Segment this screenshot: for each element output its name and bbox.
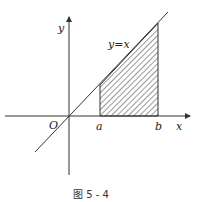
y-axis-label: y xyxy=(57,22,65,35)
curve-label: y=x xyxy=(107,38,130,51)
a-label: a xyxy=(96,120,103,133)
x-axis-label: x xyxy=(176,120,183,133)
origin-label: O xyxy=(49,119,58,132)
diagram: y y=x O a b x 图 5 - 4 xyxy=(0,0,202,202)
figure-caption: 图 5 - 4 xyxy=(73,189,109,200)
b-label: b xyxy=(155,120,162,133)
shaded-region xyxy=(100,23,158,116)
